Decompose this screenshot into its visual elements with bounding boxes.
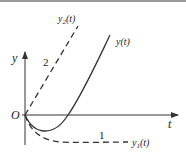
y-axis-label: y: [11, 51, 18, 65]
diagram-canvas: y t O y2(t) 2 y(t) 1 y1(t): [0, 0, 186, 158]
curve-y1: [25, 115, 128, 142]
curve-y: [25, 35, 110, 131]
curve-y-label: y(t): [115, 36, 131, 48]
curve-y2-marker: 2: [43, 56, 49, 68]
curve-y1-marker: 1: [99, 129, 105, 141]
response-curves-diagram: y t O y2(t) 2 y(t) 1 y1(t): [0, 0, 186, 158]
curve-y2: [25, 26, 78, 115]
x-axis-label: t: [168, 117, 172, 131]
origin-label: O: [11, 108, 20, 122]
curve-y2-label: y2(t): [57, 13, 76, 26]
curve-y1-label: y1(t): [131, 137, 150, 150]
